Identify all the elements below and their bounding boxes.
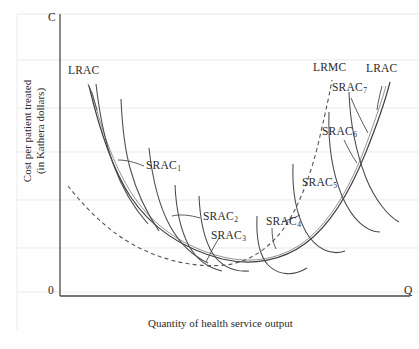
srac-4-label: SRAC4 bbox=[266, 216, 301, 228]
srac-2-curve-b bbox=[175, 185, 222, 271]
y-axis-label: Cost per patient treated (in Kathera dol… bbox=[21, 51, 47, 211]
srac-6-label: SRAC6 bbox=[322, 126, 357, 138]
srac-4-label-text: SRAC bbox=[266, 215, 297, 227]
srac-7-label-text: SRAC bbox=[332, 81, 363, 93]
srac-2-label: SRAC2 bbox=[203, 211, 238, 223]
leader-srac4 bbox=[272, 228, 276, 249]
leader-srac1 bbox=[118, 160, 144, 166]
y-axis-label-line-2: (in Kathera dollars) bbox=[34, 51, 47, 211]
srac-3-label-sub: 3 bbox=[242, 234, 246, 243]
srac-7-label-sub: 7 bbox=[363, 86, 367, 95]
srac-4-label-sub: 4 bbox=[297, 220, 301, 229]
y-axis-label-line-1: Cost per patient treated bbox=[21, 51, 34, 211]
gridlines bbox=[17, 14, 419, 330]
srac-6-label-text: SRAC bbox=[322, 125, 353, 137]
srac-7-label: SRAC7 bbox=[332, 82, 367, 94]
cost-curve-figure: C 0 Q Cost per patient treated (in Kathe… bbox=[0, 0, 419, 349]
lrac-left-label: LRAC bbox=[68, 65, 99, 77]
srac-1-curve bbox=[96, 84, 148, 224]
srac-5-label: SRAC5 bbox=[302, 177, 337, 189]
srac-5-label-sub: 5 bbox=[333, 181, 337, 190]
srac-1-label-sub: 1 bbox=[177, 164, 181, 173]
srac-6-label-sub: 6 bbox=[353, 130, 357, 139]
leader-lrac-left bbox=[88, 84, 97, 110]
leader-srac2 bbox=[172, 215, 200, 218]
lrmc-label: LRMC bbox=[313, 62, 346, 74]
lrac-right-label: LRAC bbox=[366, 63, 397, 75]
srac-2-label-sub: 2 bbox=[234, 215, 238, 224]
origin-label: 0 bbox=[48, 285, 54, 297]
plot-area bbox=[0, 0, 419, 349]
x-axis-label: Quantity of health service output bbox=[148, 318, 293, 329]
y-axis-letter: C bbox=[48, 12, 56, 24]
srac-3-label: SRAC3 bbox=[211, 230, 246, 242]
srac-5-label-text: SRAC bbox=[302, 176, 333, 188]
srac-2-label-text: SRAC bbox=[203, 210, 234, 222]
srac-3-label-text: SRAC bbox=[211, 229, 242, 241]
x-axis-letter: Q bbox=[404, 285, 412, 297]
srac-1-label-text: SRAC bbox=[146, 159, 177, 171]
srac-1-label: SRAC1 bbox=[146, 160, 181, 172]
srac-7-curve bbox=[349, 92, 399, 222]
